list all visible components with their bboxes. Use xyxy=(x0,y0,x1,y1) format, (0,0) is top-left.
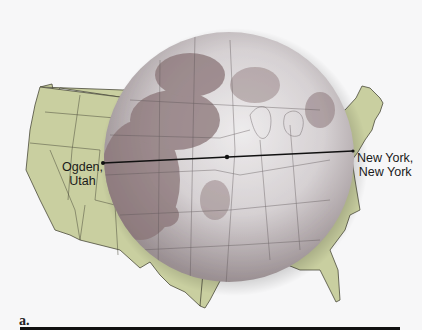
ogden-label: Ogden, Utah xyxy=(62,160,103,188)
newyork-label-line2: New York xyxy=(357,165,413,179)
midpoint-dot xyxy=(225,155,229,159)
ogden-label-line1: Ogden, xyxy=(62,160,103,174)
newyork-label: New York, New York xyxy=(357,151,413,179)
ogden-label-line2: Utah xyxy=(62,174,103,188)
newyork-label-line1: New York, xyxy=(357,151,413,165)
newyork-dot xyxy=(351,149,354,152)
figure: Ogden, Utah New York, New York a. xyxy=(0,0,422,330)
